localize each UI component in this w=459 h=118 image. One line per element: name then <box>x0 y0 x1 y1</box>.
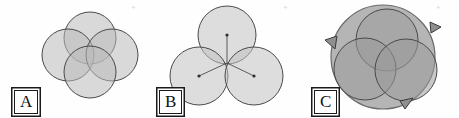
center-dot-top <box>225 33 228 36</box>
registration-mark: + <box>131 4 136 12</box>
panel-b: + B <box>150 0 305 118</box>
panel-c: + C <box>305 0 459 118</box>
figure-root: + A + B <box>0 0 459 118</box>
registration-mark: + <box>283 4 288 12</box>
arrow-left-icon <box>325 36 337 49</box>
center-dot-bottom-right <box>252 74 255 77</box>
registration-mark: + <box>436 4 441 12</box>
panel-label-b: B <box>159 90 182 114</box>
panel-label-a: A <box>14 90 38 114</box>
arrow-top-right-icon <box>430 22 441 33</box>
panel-label-c: C <box>314 90 337 114</box>
panel-a: + A <box>0 0 150 118</box>
circle-bottom <box>64 46 116 98</box>
center-dot-bottom-left <box>197 74 200 77</box>
circle-bottom-right <box>375 39 437 101</box>
